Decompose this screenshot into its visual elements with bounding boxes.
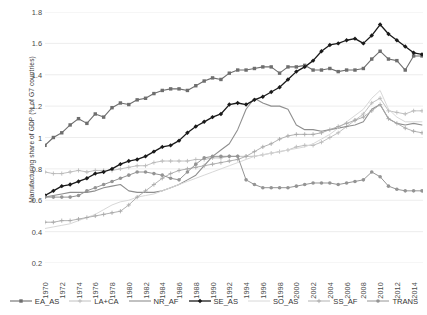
data-point — [353, 180, 357, 184]
y-tick-label: 1 — [12, 133, 42, 142]
data-point — [270, 65, 273, 68]
legend-swatch-none-icon — [247, 296, 271, 306]
data-point — [344, 38, 348, 42]
data-point — [219, 155, 223, 159]
legend-swatch-none-icon — [128, 296, 152, 306]
manufacturing-share-line-chart: Manufacturing share of GDP (% of G7 coun… — [0, 0, 427, 315]
legend-swatch-diamond-icon — [188, 296, 212, 306]
data-point — [211, 76, 214, 79]
data-point — [186, 170, 190, 174]
data-point — [60, 195, 64, 199]
data-point — [278, 71, 281, 74]
data-point — [52, 136, 55, 139]
data-point — [52, 195, 56, 199]
data-point — [144, 170, 148, 174]
y-tick-label: 0.6 — [12, 196, 42, 205]
legend-item-ss-af[interactable]: SS_AF — [307, 296, 357, 306]
data-point — [211, 155, 215, 159]
data-point — [286, 65, 289, 68]
legend-label: TRANS — [392, 297, 418, 306]
data-point — [261, 186, 265, 190]
data-point — [119, 176, 123, 180]
data-point — [127, 159, 131, 163]
data-point — [404, 68, 407, 71]
data-point — [336, 41, 340, 45]
gridlines — [45, 12, 423, 263]
data-point — [378, 50, 381, 53]
series-line — [45, 51, 422, 145]
data-point — [286, 186, 290, 190]
data-point — [387, 57, 390, 60]
data-point — [77, 194, 81, 198]
data-point — [68, 123, 71, 126]
legend-swatch-circle-icon — [366, 296, 390, 306]
data-point — [76, 179, 80, 183]
data-point — [345, 181, 349, 185]
data-point — [395, 59, 398, 62]
data-point — [169, 87, 172, 90]
data-point — [161, 89, 164, 92]
data-point — [19, 299, 22, 302]
data-point — [295, 184, 299, 188]
data-point — [311, 181, 315, 185]
legend-label: EA_AS — [35, 297, 59, 306]
data-point — [395, 187, 399, 191]
data-point — [377, 299, 381, 303]
series-line — [45, 98, 422, 197]
data-point — [94, 112, 97, 115]
data-point — [68, 195, 72, 199]
data-point — [102, 115, 105, 118]
legend-swatch-cross-icon — [68, 296, 92, 306]
data-point — [228, 155, 232, 159]
legend-label: SS_AF — [333, 297, 357, 306]
data-point — [135, 157, 139, 161]
data-point — [152, 172, 156, 176]
legend-item-se-as[interactable]: SE_AS — [188, 296, 238, 306]
y-tick-label: 0.2 — [12, 259, 42, 268]
data-point — [244, 178, 248, 182]
data-point — [85, 122, 88, 125]
data-point — [219, 78, 222, 81]
legend-swatch-cross-icon — [307, 296, 331, 306]
data-point — [169, 176, 173, 180]
data-point — [278, 186, 282, 190]
y-axis-tick-labels: 1.81.61.41.210.80.60.40.2 — [8, 0, 42, 315]
data-point — [93, 186, 97, 190]
data-point — [202, 79, 205, 82]
legend-swatch-square-icon — [9, 296, 33, 306]
legend-label: SO_AS — [273, 297, 298, 306]
series-trans — [45, 155, 423, 199]
y-tick-label: 1.2 — [12, 102, 42, 111]
y-tick-label: 0.8 — [12, 164, 42, 173]
legend-item-trans[interactable]: TRANS — [366, 296, 418, 306]
legend-label: LA+CA — [94, 297, 118, 306]
series-nr-af — [45, 98, 422, 197]
data-point — [127, 103, 130, 106]
data-point — [412, 189, 416, 193]
plot-area — [45, 12, 423, 263]
data-point — [320, 68, 323, 71]
data-point — [403, 189, 407, 193]
y-tick-label: 0.4 — [12, 227, 42, 236]
legend-item-nr-af[interactable]: NR_AF — [128, 296, 179, 306]
data-point — [311, 68, 314, 71]
data-point — [261, 65, 264, 68]
y-tick-label: 1.8 — [12, 8, 42, 17]
data-point — [85, 189, 89, 193]
data-point — [236, 155, 240, 159]
data-point — [337, 70, 340, 73]
data-point — [144, 97, 147, 100]
data-point — [135, 98, 138, 101]
data-point — [336, 183, 340, 187]
data-point — [77, 117, 80, 120]
data-point — [228, 71, 231, 74]
legend-item-la-ca[interactable]: LA+CA — [68, 296, 118, 306]
data-point — [135, 170, 139, 174]
legend-item-so-as[interactable]: SO_AS — [247, 296, 298, 306]
data-point — [45, 144, 47, 147]
legend-item-ea-as[interactable]: EA_AS — [9, 296, 59, 306]
data-point — [362, 67, 365, 70]
data-point — [160, 173, 164, 177]
data-point — [303, 183, 307, 187]
data-point — [110, 106, 113, 109]
